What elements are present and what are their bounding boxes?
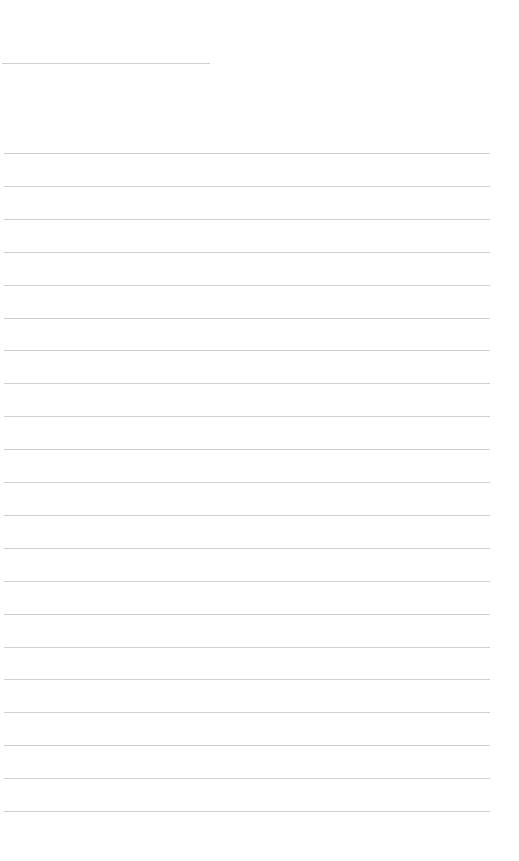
ruled-line	[4, 318, 490, 319]
ruled-line	[4, 581, 490, 582]
ruled-line	[4, 383, 490, 384]
ruled-line	[4, 416, 490, 417]
ruled-line	[4, 219, 490, 220]
ruled-line	[4, 252, 490, 253]
ruled-line	[4, 778, 490, 779]
ruled-line	[4, 449, 490, 450]
ruled-line	[4, 745, 490, 746]
ruled-line	[4, 515, 490, 516]
ruled-line	[4, 548, 490, 549]
ruled-line	[4, 153, 490, 154]
ruled-line	[4, 186, 490, 187]
ruled-line	[4, 679, 490, 680]
ruled-line	[4, 482, 490, 483]
ruled-line	[4, 811, 490, 812]
ruled-line	[4, 614, 490, 615]
ruled-line	[4, 285, 490, 286]
ruled-line	[4, 712, 490, 713]
title-write-line	[2, 63, 210, 64]
ruled-line	[4, 350, 490, 351]
ruled-line	[4, 647, 490, 648]
